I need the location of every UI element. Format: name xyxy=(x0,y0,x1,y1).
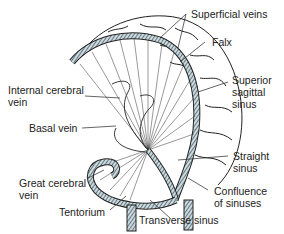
label-straight-sinus: Straight sinus xyxy=(233,150,269,174)
label-great-cerebral-vein-line2: vein xyxy=(19,189,86,201)
label-transverse-sinus: Transverse sinus xyxy=(139,214,219,226)
label-internal-cerebral-vein: Internal cerebral vein xyxy=(8,84,84,108)
label-superior-sagittal-sinus-line1: Superior xyxy=(232,74,272,86)
label-falx: Falx xyxy=(212,36,232,48)
label-superior-sagittal-sinus-line2: sagittal xyxy=(232,86,272,98)
label-superficial-veins: Superficial veins xyxy=(191,8,267,20)
label-tentorium: Tentorium xyxy=(59,206,105,218)
label-straight-sinus-line2: sinus xyxy=(233,162,269,174)
label-great-cerebral-vein: Great cerebral vein xyxy=(19,177,86,201)
label-great-cerebral-vein-line1: Great cerebral xyxy=(19,177,86,189)
label-basal-vein: Basal vein xyxy=(29,122,77,134)
label-internal-cerebral-vein-line1: Internal cerebral xyxy=(8,84,84,96)
label-confluence-of-sinuses: Confluence of sinuses xyxy=(214,185,267,209)
label-internal-cerebral-vein-line2: vein xyxy=(8,96,84,108)
straight-sinus xyxy=(148,150,176,200)
falx-membrane xyxy=(80,38,195,200)
label-superior-sagittal-sinus: Superior sagittal sinus xyxy=(232,74,272,110)
label-confluence-line1: Confluence xyxy=(214,185,267,197)
leader-lines xyxy=(82,14,228,218)
label-superior-sagittal-sinus-line3: sinus xyxy=(232,98,272,110)
label-straight-sinus-line1: Straight xyxy=(233,150,269,162)
deep-veins xyxy=(112,81,154,152)
label-confluence-line2: of sinuses xyxy=(214,197,267,209)
